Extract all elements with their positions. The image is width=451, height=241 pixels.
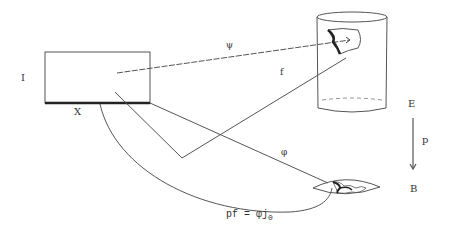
diagram-canvas <box>0 0 451 241</box>
equation-text: pf = φj <box>226 209 268 220</box>
label-f: f <box>280 68 283 77</box>
projection-arrow <box>410 118 416 169</box>
label-E: E <box>408 99 415 109</box>
label-p: p <box>422 135 428 145</box>
label-phi: φ <box>281 148 287 157</box>
equation-subscript: 0 <box>268 213 273 222</box>
base-space-lens <box>313 180 380 194</box>
square-i-x <box>45 52 150 103</box>
label-I: I <box>21 73 25 83</box>
phi-arrow <box>150 103 328 183</box>
equation-label: pf = φj0 <box>226 210 273 222</box>
cylinder-total-space <box>317 12 387 112</box>
label-X: X <box>74 107 81 117</box>
label-psi: ψ <box>226 41 233 50</box>
pf-curve <box>100 104 332 212</box>
psi-arrow <box>117 40 350 73</box>
label-B: B <box>410 184 417 194</box>
